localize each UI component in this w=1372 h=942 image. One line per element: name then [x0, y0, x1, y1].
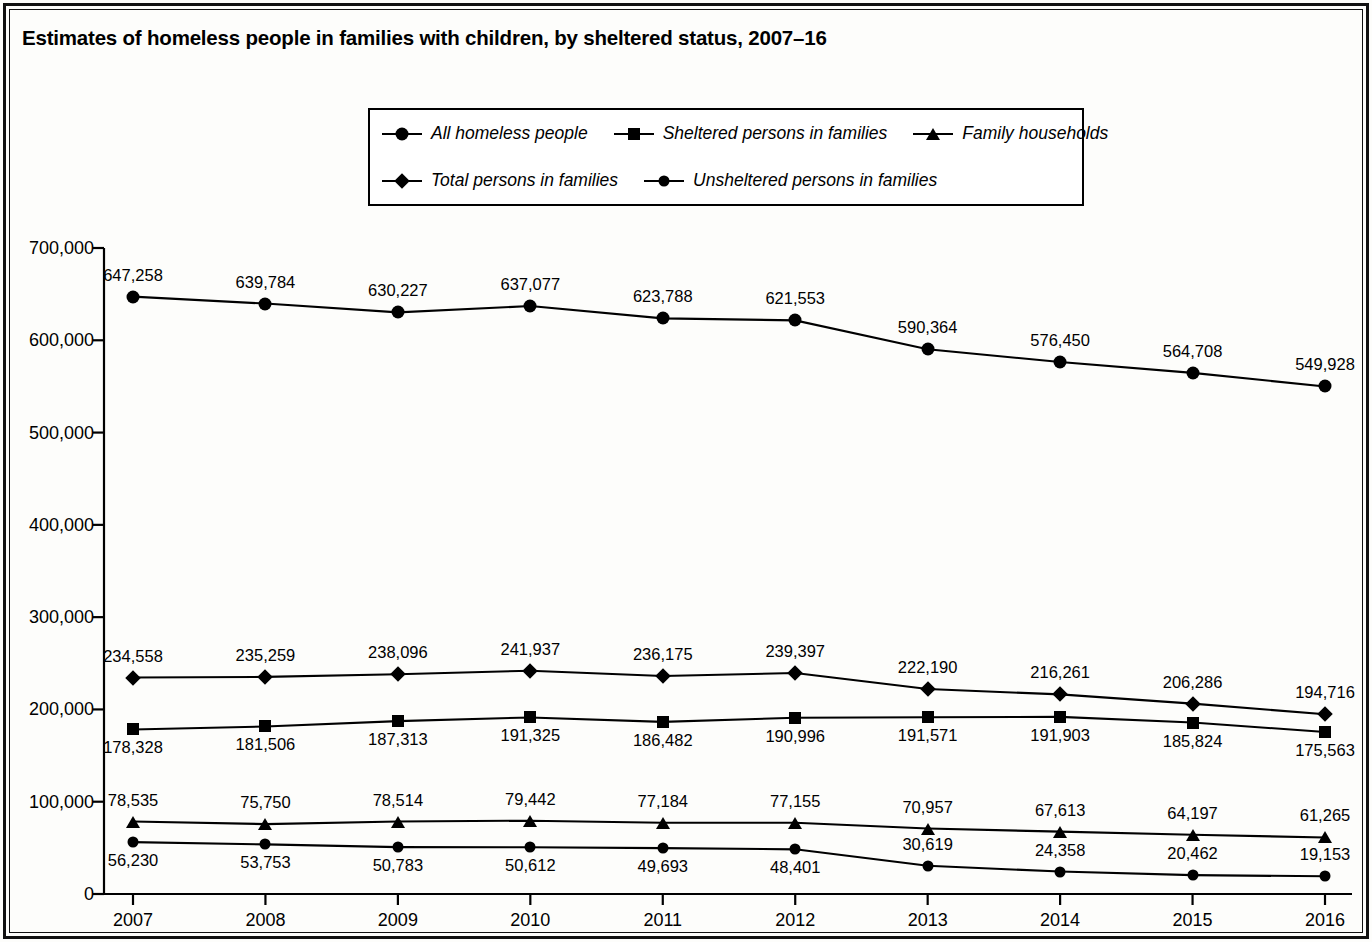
diamond-marker-icon [1052, 687, 1068, 703]
data-point-label: 239,397 [765, 642, 825, 661]
data-point-label: 590,364 [898, 318, 958, 337]
data-point-label: 78,514 [373, 791, 423, 810]
data-point-label: 64,197 [1167, 804, 1217, 823]
data-point-label: 79,442 [505, 790, 555, 809]
circle-marker-icon [259, 297, 272, 310]
data-point-label: 206,286 [1163, 673, 1223, 692]
y-axis-tick-label: 0 [84, 884, 94, 905]
square-marker-icon [127, 723, 139, 735]
data-point-label: 77,184 [638, 792, 688, 811]
circle-marker-icon [1319, 380, 1332, 393]
y-axis-tick-label: 500,000 [29, 422, 94, 443]
square-marker-icon [789, 712, 801, 724]
triangle-marker-icon [656, 817, 670, 829]
circle-sm-marker-icon [790, 844, 801, 855]
x-axis-tick-label: 2014 [1040, 910, 1080, 931]
triangle-marker-icon [126, 816, 140, 828]
square-marker-icon [657, 716, 669, 728]
x-axis-tick-label: 2007 [113, 910, 153, 931]
y-axis-tick-label: 100,000 [29, 791, 94, 812]
data-point-label: 50,612 [505, 856, 555, 875]
data-point-label: 194,716 [1295, 683, 1355, 702]
chart-label-overlay: 0100,000200,000300,000400,000500,000600,… [0, 0, 1372, 942]
data-point-label: 241,937 [501, 640, 561, 659]
data-point-label: 647,258 [103, 266, 163, 285]
triangle-marker-icon [921, 823, 935, 835]
diamond-marker-icon [258, 669, 274, 685]
data-point-label: 49,693 [638, 857, 688, 876]
circle-marker-icon [789, 314, 802, 327]
data-point-label: 216,261 [1030, 663, 1090, 682]
circle-sm-marker-icon [128, 837, 139, 848]
data-point-label: 185,824 [1163, 732, 1223, 751]
circle-marker-icon [127, 290, 140, 303]
circle-sm-marker-icon [1187, 870, 1198, 881]
chart-figure: Estimates of homeless people in families… [0, 0, 1372, 942]
x-axis-tick-label: 2015 [1173, 910, 1213, 931]
data-point-label: 576,450 [1030, 331, 1090, 350]
data-point-label: 222,190 [898, 658, 958, 677]
circle-sm-marker-icon [392, 842, 403, 853]
x-axis-tick-label: 2013 [908, 910, 948, 931]
triangle-marker-icon [258, 818, 272, 830]
diamond-marker-icon [390, 666, 406, 682]
data-point-label: 637,077 [501, 275, 561, 294]
circle-sm-marker-icon [1055, 866, 1066, 877]
circle-marker-icon [1186, 366, 1199, 379]
data-point-label: 191,903 [1030, 726, 1090, 745]
data-point-label: 190,996 [765, 727, 825, 746]
x-axis-tick-label: 2010 [510, 910, 550, 931]
data-point-label: 175,563 [1295, 741, 1355, 760]
circle-sm-marker-icon [525, 842, 536, 853]
data-point-label: 238,096 [368, 643, 428, 662]
triangle-marker-icon [1318, 831, 1332, 843]
data-point-label: 234,558 [103, 647, 163, 666]
circle-marker-icon [656, 312, 669, 325]
data-point-label: 564,708 [1163, 342, 1223, 361]
data-point-label: 191,571 [898, 726, 958, 745]
diamond-marker-icon [1185, 696, 1201, 712]
diamond-marker-icon [787, 665, 803, 681]
diamond-marker-icon [125, 670, 141, 686]
square-marker-icon [259, 720, 271, 732]
data-point-label: 639,784 [236, 273, 296, 292]
y-axis-tick-label: 600,000 [29, 330, 94, 351]
data-point-label: 621,553 [765, 289, 825, 308]
triangle-marker-icon [1053, 826, 1067, 838]
y-axis-tick-label: 300,000 [29, 607, 94, 628]
data-point-label: 623,788 [633, 287, 693, 306]
circle-marker-icon [524, 300, 537, 313]
data-point-label: 191,325 [501, 726, 561, 745]
x-axis-tick-label: 2011 [643, 910, 682, 931]
circle-sm-marker-icon [922, 860, 933, 871]
data-point-label: 187,313 [368, 730, 428, 749]
diamond-marker-icon [1317, 707, 1333, 723]
data-point-label: 236,175 [633, 645, 693, 664]
square-marker-icon [1319, 726, 1331, 738]
data-point-label: 30,619 [902, 835, 952, 854]
data-point-label: 186,482 [633, 731, 693, 750]
square-marker-icon [524, 711, 536, 723]
square-marker-icon [922, 711, 934, 723]
data-point-label: 75,750 [240, 793, 290, 812]
diamond-marker-icon [655, 668, 671, 684]
circle-marker-icon [391, 306, 404, 319]
triangle-marker-icon [788, 817, 802, 829]
circle-marker-icon [1054, 356, 1067, 369]
circle-marker-icon [921, 343, 934, 356]
circle-sm-marker-icon [657, 843, 668, 854]
data-point-label: 24,358 [1035, 841, 1085, 860]
square-marker-icon [1054, 711, 1066, 723]
x-axis-tick-label: 2016 [1305, 910, 1345, 931]
diamond-marker-icon [523, 663, 539, 679]
y-axis-tick-label: 400,000 [29, 514, 94, 535]
triangle-marker-icon [523, 815, 537, 827]
data-point-label: 53,753 [240, 853, 290, 872]
y-axis-tick-label: 700,000 [29, 238, 94, 259]
data-point-label: 178,328 [103, 738, 163, 757]
circle-sm-marker-icon [260, 839, 271, 850]
triangle-marker-icon [391, 816, 405, 828]
data-point-label: 78,535 [108, 791, 158, 810]
data-point-label: 67,613 [1035, 801, 1085, 820]
data-point-label: 50,783 [373, 856, 423, 875]
